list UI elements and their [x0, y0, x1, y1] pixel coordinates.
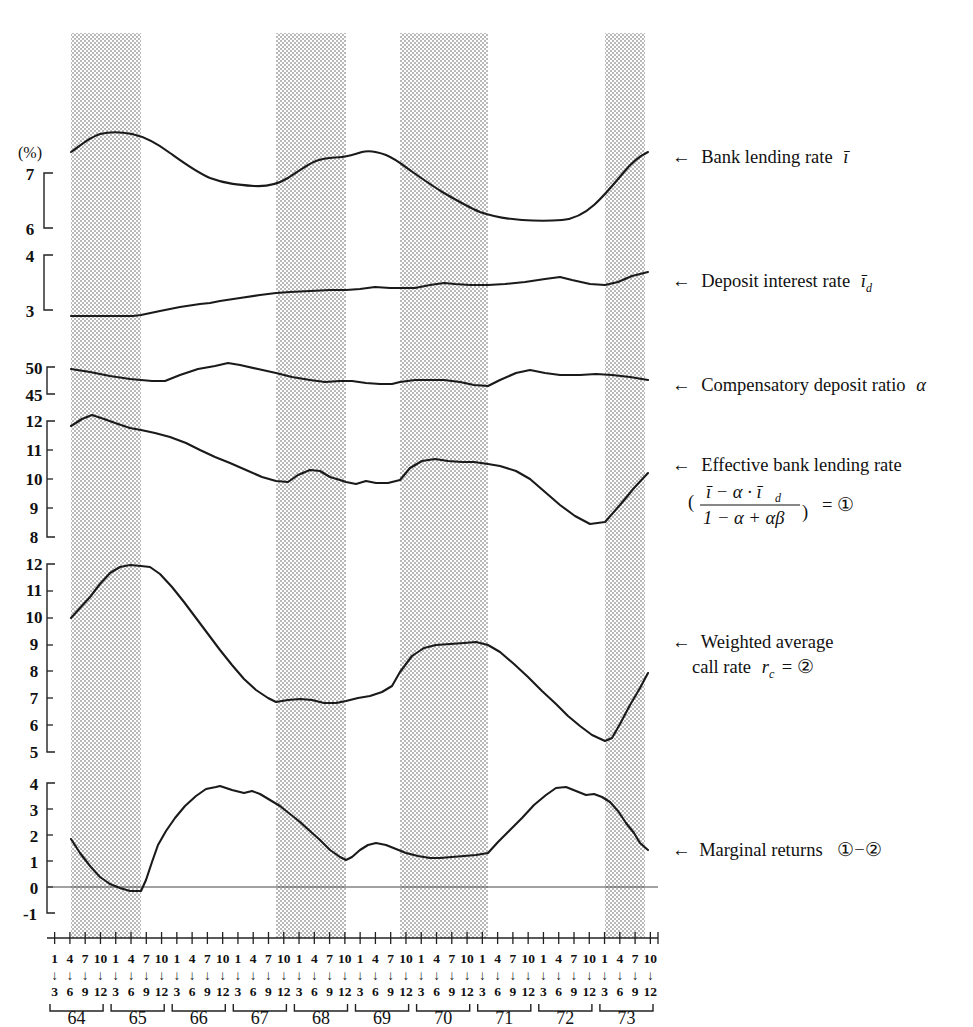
x-month-arrow: ↓: [403, 968, 410, 983]
x-month-arrow: ↓: [601, 968, 608, 983]
x-month-arrow: ↓: [204, 968, 211, 983]
svg-text:← Bank lending rate: ← Bank lending rate ī: [672, 147, 850, 167]
x-year-label: 68: [312, 1008, 330, 1027]
x-month-top-label: 1: [357, 951, 364, 966]
x-month-top-label: 1: [296, 951, 303, 966]
x-month-top-label: 4: [616, 951, 623, 966]
ytick-p1-6: 6: [26, 220, 35, 239]
ytick-p6-neg1: -1: [23, 905, 37, 924]
panel4-ticks: [47, 450, 53, 508]
x-month-top-label: 10: [460, 951, 474, 966]
x-month-arrow: ↓: [387, 968, 394, 983]
x-month-arrow: ↓: [326, 968, 333, 983]
x-month-bottom-label: 3: [601, 984, 608, 999]
x-month-bottom-label: 9: [510, 984, 517, 999]
x-month-bottom-label: 6: [189, 984, 196, 999]
x-month-top-label: 7: [204, 951, 211, 966]
x-month-arrow: ↓: [51, 968, 58, 983]
x-month-arrow: ↓: [494, 968, 501, 983]
shaded-bands: [71, 33, 645, 938]
x-month-bottom-label: 3: [51, 984, 58, 999]
annotation-label-deposit-interest-rate: Deposit interest rate: [701, 271, 850, 291]
x-month-bottom-label: 6: [128, 984, 135, 999]
x-month-bottom-label: 3: [235, 984, 242, 999]
x-year-label: 66: [190, 1008, 208, 1027]
x-month-arrow: ↓: [97, 968, 104, 983]
x-month-arrow: ↓: [235, 968, 242, 983]
x-month-top-label: 7: [265, 951, 272, 966]
x-month-arrow: ↓: [112, 968, 119, 983]
curve-effective-lending-rate: [71, 415, 648, 524]
x-month-arrow: ↓: [448, 968, 455, 983]
arrow-glyph-4: ←: [672, 455, 691, 475]
x-month-bottom-label: 6: [433, 984, 440, 999]
x-year-label: 71: [495, 1008, 513, 1027]
ytick-p3-50: 50: [26, 359, 43, 378]
x-month-arrow: ↓: [341, 968, 348, 983]
x-month-arrow: ↓: [67, 968, 74, 983]
x-month-bottom-label: 12: [644, 984, 658, 999]
arrow-glyph-2: ←: [672, 271, 691, 291]
x-month-top-label: 4: [494, 951, 501, 966]
x-month-arrow: ↓: [525, 968, 532, 983]
x-month-top-label: 1: [51, 951, 58, 966]
x-month-top-label: 7: [326, 951, 333, 966]
shaded-band-1: [71, 33, 141, 938]
x-month-arrow: ↓: [173, 968, 180, 983]
annotation-bank-lending-rate: ← Bank lending rate ī: [672, 147, 850, 167]
x-month-top-label: 1: [479, 951, 486, 966]
circled-1-minus-circled-2: ①−②: [837, 840, 881, 860]
x-month-top-label: 4: [555, 951, 562, 966]
x-month-bottom-label: 6: [555, 984, 562, 999]
x-month-arrow: ↓: [128, 968, 135, 983]
x-month-bottom-label: 9: [632, 984, 639, 999]
annotation-label-call-rate: call rate: [692, 657, 751, 677]
x-month-top-label: 4: [189, 951, 196, 966]
annotation-label-effective-bank-lending-rate: Effective bank lending rate: [701, 455, 902, 475]
formula-equals-circled-1: = ①: [822, 495, 854, 515]
formula-paren-close: ): [802, 502, 808, 523]
curve-compensatory-ratio: [71, 363, 648, 386]
x-month-top-label: 10: [644, 951, 658, 966]
ytick-p5-6: 6: [30, 716, 39, 735]
curve-marginal-returns: [71, 786, 648, 891]
x-month-bottom-label: 9: [265, 984, 272, 999]
x-month-bottom-label: 9: [448, 984, 455, 999]
x-year-label: 69: [373, 1008, 391, 1027]
curve-bank-lending-rate: [71, 132, 648, 221]
svg-text:← Weighted average: ← Weighted average: [672, 632, 833, 652]
x-month-top-label: 1: [112, 951, 119, 966]
x-month-arrow: ↓: [296, 968, 303, 983]
x-month-bottom-label: 3: [540, 984, 547, 999]
x-month-top-label: 1: [235, 951, 242, 966]
ytick-p5-10: 10: [26, 608, 43, 627]
panel3-axis-bracket: [47, 367, 55, 394]
x-month-top-label: 1: [418, 951, 425, 966]
annotation-label-compensatory-deposit-ratio: Compensatory deposit ratio: [701, 375, 906, 395]
x-axis: 1↓34↓67↓910↓121↓34↓67↓910↓121↓34↓67↓910↓…: [47, 932, 658, 1027]
x-month-top-label: 7: [632, 951, 639, 966]
x-year-label: 65: [129, 1008, 147, 1027]
x-month-top-label: 7: [571, 951, 578, 966]
x-month-bottom-label: 12: [277, 984, 291, 999]
x-month-arrow: ↓: [189, 968, 196, 983]
symbol-subscript-c: c: [769, 667, 775, 681]
x-month-arrow: ↓: [586, 968, 593, 983]
ytick-p6-4: 4: [30, 775, 39, 794]
svg-text:← Compensatory deposit: ← Compensatory deposit ratio α: [672, 375, 927, 395]
x-month-top-label: 10: [277, 951, 291, 966]
x-month-bottom-label: 3: [479, 984, 486, 999]
x-month-top-label: 7: [387, 951, 394, 966]
x-month-arrow: ↓: [357, 968, 364, 983]
formula-paren-open: (: [688, 492, 694, 513]
x-month-arrow: ↓: [647, 968, 654, 983]
ytick-p2-4: 4: [26, 247, 35, 266]
panel5-ticks: [47, 591, 53, 725]
formula-denominator: 1 − α + αβ: [703, 508, 785, 528]
x-month-top-label: 1: [173, 951, 180, 966]
shaded-band-2: [276, 33, 346, 938]
x-month-arrow: ↓: [250, 968, 257, 983]
multi-panel-line-chart: (%) 7 6 4 3 50 45 12 11 10 9 8: [0, 0, 973, 1027]
x-month-top-label: 10: [338, 951, 352, 966]
annotation-label-weighted-average: Weighted average: [701, 632, 834, 652]
